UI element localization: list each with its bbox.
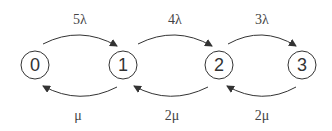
rate-label-0-1: 5λ	[73, 12, 87, 27]
rate-label-2-3: 3λ	[255, 12, 269, 27]
rate-label-1-0: μ	[74, 108, 82, 123]
edge-0-1	[43, 35, 117, 46]
edge-3-2	[227, 86, 296, 96]
edge-1-0	[43, 86, 117, 96]
rate-label-3-2: 2μ	[255, 108, 270, 123]
svg-text:0: 0	[30, 55, 40, 75]
svg-text:2: 2	[214, 55, 224, 75]
state-diagram: 0 1 2 3 5λ 4λ 3λ μ 2μ 2μ	[0, 0, 332, 131]
node-2: 2	[205, 51, 233, 79]
rate-label-2-1: 2μ	[165, 108, 180, 123]
node-1: 1	[109, 51, 137, 79]
node-3: 3	[288, 51, 316, 79]
svg-text:3: 3	[297, 55, 307, 75]
edge-2-1	[134, 86, 208, 96]
node-0: 0	[21, 51, 49, 79]
rate-label-1-2: 4λ	[168, 12, 182, 27]
edge-2-3	[228, 35, 296, 46]
svg-text:1: 1	[118, 55, 128, 75]
edge-1-2	[138, 35, 212, 46]
